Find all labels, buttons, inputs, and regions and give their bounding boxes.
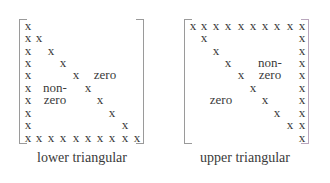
matrix-entry: x (97, 131, 104, 144)
matrix-entry: x (85, 81, 92, 94)
matrix-entry: x (36, 131, 43, 144)
matrix-entry: x (225, 56, 232, 69)
right-bracket (136, 19, 144, 144)
matrix-entry: x (60, 131, 67, 144)
matrix-entry: x (60, 56, 67, 69)
matrix-entry: x (274, 106, 281, 119)
matrix-entry: x (73, 131, 80, 144)
matrix-entry: x (122, 131, 129, 144)
matrix-entry: x (73, 68, 80, 81)
matrix-entry: x (36, 31, 43, 44)
matrix-entry: x (225, 19, 232, 32)
matrix-entry: x (48, 44, 55, 57)
matrix-entry: x (97, 93, 104, 106)
lower-triangular-matrix: zero non- zero lower triangular xxxxxxxx… (0, 0, 165, 183)
matrix-entry: x (262, 93, 269, 106)
left-bracket (184, 19, 192, 144)
zero-region-label: zero (94, 68, 116, 81)
matrix-entry: x (25, 131, 32, 144)
matrix-entry: x (274, 19, 281, 32)
matrix-entry: x (299, 131, 306, 144)
zero-region-label: zero (210, 93, 232, 106)
nonzero-region-label-line2: zero (259, 68, 281, 81)
matrix-entry: x (287, 118, 294, 131)
matrix-entry: x (109, 131, 116, 144)
matrix-entry: x (201, 31, 208, 44)
matrix-entry: x (134, 131, 141, 144)
matrix-entry: x (213, 19, 220, 32)
upper-triangular-matrix: non- zero zero upper triangular xxxxxxxx… (165, 0, 330, 183)
matrix-entry: x (213, 44, 220, 57)
matrix-entry: x (190, 19, 197, 32)
lower-triangular-caption: lower triangular (37, 151, 127, 165)
matrix-entry: x (250, 19, 257, 32)
nonzero-region-label-line2: zero (44, 93, 66, 106)
matrix-entry: x (48, 131, 55, 144)
matrix-entry: x (238, 68, 245, 81)
matrix-entry: x (262, 19, 269, 32)
matrix-entry: x (85, 131, 92, 144)
matrix-entry: x (238, 19, 245, 32)
matrix-entry: x (287, 19, 294, 32)
upper-triangular-caption: upper triangular (200, 151, 290, 165)
matrix-entry: x (109, 106, 116, 119)
matrix-entry: x (250, 81, 257, 94)
